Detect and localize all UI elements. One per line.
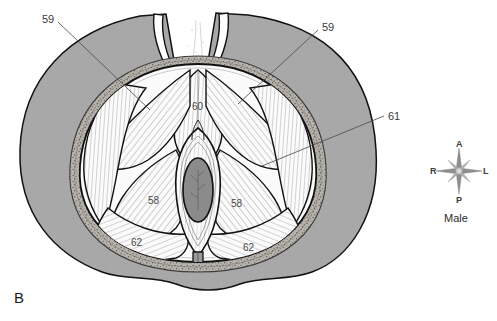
compass-left-label: L (483, 167, 489, 176)
compass-posterior-label: P (456, 196, 462, 205)
inner-label-62-left: 62 (131, 238, 142, 248)
panel-letter: B (14, 290, 24, 305)
callout-label-59-right: 59 (322, 22, 334, 33)
compass-caption: Male (444, 213, 468, 224)
callout-label-59-left: 59 (42, 14, 54, 25)
inner-label-58-left: 58 (148, 196, 159, 206)
compass-right-label: R (430, 167, 437, 176)
inner-label-62-right: 62 (243, 243, 254, 253)
inner-label-60: 60 (192, 102, 203, 112)
compass-anterior-label: A (456, 140, 463, 149)
inner-label-58-right: 58 (231, 199, 242, 209)
callout-label-61: 61 (388, 111, 400, 122)
orientation-compass (436, 148, 482, 194)
anatomical-figure-panel-b: 59 59 61 60 58 58 62 62 A P R L Male B (0, 0, 497, 321)
anatomy-illustration (0, 0, 497, 321)
